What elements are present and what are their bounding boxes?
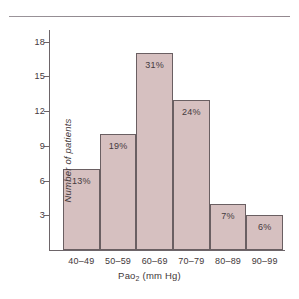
bar-slot-50-59: 19% 50–59 [100,30,137,250]
bar-70-79[interactable]: 24% [173,100,210,251]
x-axis-title-subscript: 2 [136,275,140,282]
x-axis-title-tail: (mm Hg) [140,270,181,281]
x-axis-title-base: Pao [118,270,136,281]
y-axis-line [49,30,50,250]
y-tick-label-9: 9 [40,141,45,151]
plot-area: 3 6 9 12 15 18 13% 40–49 [49,30,289,250]
bar-90-99[interactable]: 6% [246,215,283,250]
histogram-figure: 3 6 9 12 15 18 13% 40–49 [0,0,299,299]
y-tick-label-15: 15 [35,71,45,81]
page-rule [9,16,290,17]
x-axis-title: Pao2 (mm Hg) [0,270,299,281]
bar-group: 13% 40–49 19% 50–59 31% 60–69 24% [63,30,283,250]
x-axis-line [49,250,285,251]
y-tick-label-6: 6 [40,176,45,186]
bar-percent-label-70-79: 24% [174,107,209,117]
bar-50-59[interactable]: 19% [100,134,137,250]
y-tick-label-3: 3 [40,210,45,220]
bar-slot-70-79: 24% 70–79 [173,30,210,250]
bar-percent-label-90-99: 6% [247,222,282,232]
y-axis-title: Number of patients [62,96,73,226]
bar-percent-label-60-69: 31% [137,60,172,70]
bar-slot-80-89: 7% 80–89 [210,30,247,250]
y-tick-label-18: 18 [35,37,45,47]
bar-slot-90-99: 6% 90–99 [246,30,283,250]
y-tick-label-12: 12 [35,106,45,116]
bar-slot-60-69: 31% 60–69 [136,30,173,250]
bar-percent-label-50-59: 19% [101,141,136,151]
x-tick-label-90-99: 90–99 [240,256,289,266]
bar-60-69[interactable]: 31% [136,53,173,250]
bar-80-89[interactable]: 7% [210,204,247,250]
bar-percent-label-80-89: 7% [211,211,246,221]
